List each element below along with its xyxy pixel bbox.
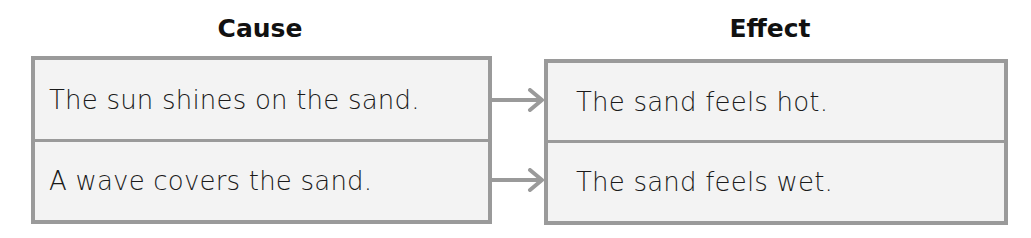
effect-box: The sand feels hot. The sand feels wet. [544,59,1008,225]
arrow-right-icon [490,88,548,112]
cause-row-1: The sun shines on the sand. [35,60,488,140]
arrow-right-icon [490,168,548,192]
cause-box: The sun shines on the sand. A wave cover… [31,56,492,224]
effect-row-2: The sand feels wet. [548,143,1004,221]
cause-row-2: A wave covers the sand. [35,142,488,220]
cause-heading: Cause [160,14,360,44]
effect-heading: Effect [670,14,870,44]
effect-row-1: The sand feels hot. [548,63,1004,141]
